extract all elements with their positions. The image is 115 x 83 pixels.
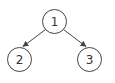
diagram-svg: 1 2 3 (0, 0, 115, 83)
edge-1-to-2 (23, 30, 46, 47)
node-1-label: 1 (51, 15, 59, 29)
node-2-label: 2 (16, 53, 24, 67)
node-3: 3 (78, 48, 102, 72)
node-2: 2 (8, 48, 32, 72)
node-1: 1 (43, 10, 67, 34)
node-3-label: 3 (86, 53, 94, 67)
tree-diagram: 1 2 3 (0, 0, 115, 83)
edge-1-to-3 (64, 30, 87, 47)
